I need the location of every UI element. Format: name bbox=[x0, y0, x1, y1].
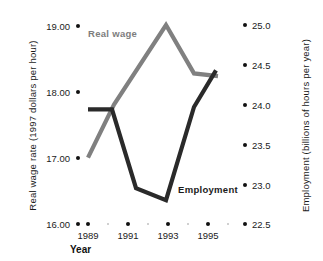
line-series-real-wage bbox=[88, 25, 218, 158]
chart-container: Real wage rate (1997 dollars per hour) E… bbox=[0, 0, 323, 261]
plot-area bbox=[0, 0, 323, 261]
line-series-employment bbox=[88, 70, 216, 200]
